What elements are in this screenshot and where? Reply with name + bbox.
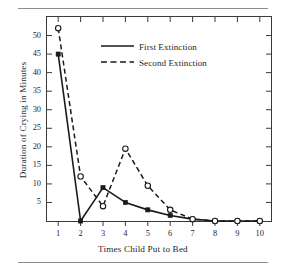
x-tick-label: 9 xyxy=(229,229,245,238)
marker-open-circle xyxy=(56,25,61,30)
marker-open-circle xyxy=(78,174,83,179)
marker-open-circle xyxy=(145,183,150,188)
marker-open-circle xyxy=(235,218,240,223)
marker-filled-square xyxy=(101,186,105,190)
x-tick-label: 7 xyxy=(185,229,201,238)
marker-open-circle xyxy=(123,146,128,151)
marker-filled-square xyxy=(168,213,172,217)
chart-figure: 5101520253035404550 12345678910 Times Ch… xyxy=(0,0,286,272)
legend-label-first-extinction: First Extinction xyxy=(139,42,197,52)
marker-open-circle xyxy=(257,218,262,223)
x-tick-label: 4 xyxy=(117,229,133,238)
marker-open-circle xyxy=(190,216,195,221)
x-tick-label: 3 xyxy=(95,229,111,238)
x-tick-label: 5 xyxy=(140,229,156,238)
marker-open-circle xyxy=(100,203,105,208)
legend-label-second-extinction: Second Extinction xyxy=(139,58,207,68)
marker-open-circle xyxy=(168,207,173,212)
y-axis-title: Duration of Crying in Minutes xyxy=(18,25,28,215)
x-tick-label: 10 xyxy=(252,229,268,238)
marker-filled-square xyxy=(79,219,83,223)
marker-filled-square xyxy=(146,208,150,212)
x-tick-label: 8 xyxy=(207,229,223,238)
x-tick-label: 6 xyxy=(162,229,178,238)
marker-filled-square xyxy=(56,52,60,56)
marker-open-circle xyxy=(212,218,217,223)
x-axis-title: Times Child Put to Bed xyxy=(0,244,286,254)
x-tick-label: 2 xyxy=(73,229,89,238)
x-tick-label: 1 xyxy=(50,229,66,238)
marker-filled-square xyxy=(123,200,127,204)
